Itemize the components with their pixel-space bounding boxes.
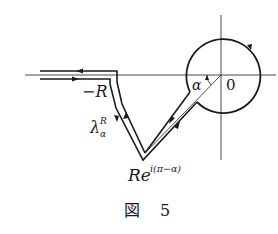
label-endpoint-exp: i(π−α) [150, 163, 181, 174]
figure-caption-number: 5 [160, 201, 170, 220]
label-neg-R: −R [82, 82, 107, 101]
figure-caption-prefix: 図 [124, 201, 140, 220]
contour-ray-upper [145, 92, 190, 153]
arrow-left-icon [76, 69, 83, 74]
label-origin: 0 [226, 76, 236, 94]
label-alpha: α [192, 77, 202, 93]
arrow-down-icon [114, 115, 119, 122]
alpha-arrow-icon [205, 75, 209, 80]
label-lambda-sup: R [99, 116, 107, 126]
contour-diagram: −R λ R α α 0 Re i(π−α) 図 5 [0, 0, 278, 234]
arrow-right-icon [72, 77, 79, 82]
label-lambda: λ [89, 118, 100, 137]
ray-line [145, 75, 221, 153]
label-endpoint-base: Re [127, 165, 151, 185]
label-lambda-sub: α [100, 129, 106, 139]
